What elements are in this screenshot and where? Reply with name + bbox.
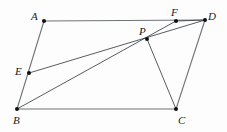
vertex-point-f — [174, 19, 178, 23]
vertex-label-b: B — [13, 115, 20, 126]
segment-c-d — [176, 20, 205, 109]
vertex-label-p: P — [139, 26, 146, 37]
geometry-figure: ABCDEFP — [0, 0, 227, 132]
vertex-point-p — [145, 37, 149, 41]
points-layer — [15, 18, 207, 111]
vertex-label-f: F — [171, 7, 178, 18]
vertex-point-e — [27, 71, 31, 75]
vertex-label-a: A — [31, 11, 38, 22]
vertex-label-e: E — [15, 66, 22, 77]
segment-p-c — [147, 39, 176, 109]
vertex-point-c — [174, 107, 178, 111]
segment-e-d — [29, 20, 205, 73]
segments-layer — [17, 20, 205, 109]
segment-b-f — [17, 21, 176, 109]
vertex-point-b — [15, 107, 19, 111]
vertex-point-a — [42, 19, 46, 23]
vertex-label-c: C — [178, 115, 185, 126]
vertex-label-d: D — [208, 11, 216, 22]
vertex-point-d — [203, 18, 207, 22]
